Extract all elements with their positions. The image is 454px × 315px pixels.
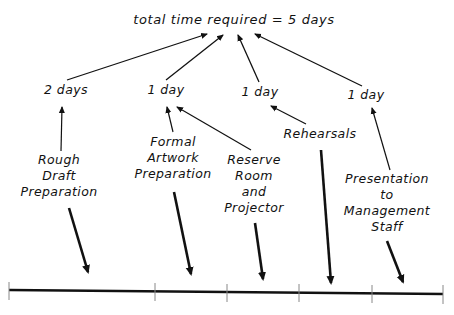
task-presentation: Presentation to Management Staff [334,171,440,235]
arrow-d4-total [255,34,362,86]
arrow-t2-d2 [167,107,173,132]
task-line: Staff [334,219,440,235]
arrow-t5-d4 [372,108,390,170]
task-line: Draft [14,168,104,184]
task-line: Formal [128,134,218,150]
task-line: Artwork [128,150,218,166]
arrow-d2-total [166,35,223,80]
arrow-d1-total [67,34,207,80]
arrow-t3-timeline [255,223,263,279]
arrow-t1-timeline [69,208,88,272]
arrow-d3-total [238,35,259,82]
arrow-t5-timeline [387,241,403,282]
duration-label-d3: 1 day [234,84,286,100]
task-line: Preparation [128,166,218,182]
task-formal-artwork: Formal Artwork Preparation [128,134,218,182]
duration-label-d1: 2 days [36,82,96,98]
task-line: Projector [214,200,294,216]
arrow-t2-timeline [174,192,191,274]
task-rehearsals: Rehearsals [280,126,360,142]
arrow-t4-d3 [271,106,306,124]
arrow-t4-timeline [321,150,331,283]
total-time-label: total time required = 5 days [118,12,350,28]
task-line: Presentation [334,171,440,187]
duration-label-d4: 1 day [340,87,392,103]
task-reserve-room: Reserve Room and Projector [214,152,294,216]
duration-to-total-arrows [67,34,362,86]
task-line: Management [334,203,440,219]
duration-label-d2: 1 day [140,82,192,98]
timeline [9,282,443,304]
timeline-axis [9,290,443,294]
task-line: Rehearsals [280,126,360,142]
task-rough-draft: Rough Draft Preparation [14,152,104,200]
task-line: and [214,184,294,200]
task-line: Rough [14,152,104,168]
task-line: to [334,187,440,203]
task-line: Preparation [14,184,104,200]
task-line: Reserve [214,152,294,168]
arrow-t1-d1 [61,107,62,151]
task-line: Room [214,168,294,184]
